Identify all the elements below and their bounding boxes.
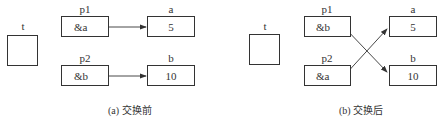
label-p2: p2 (312, 52, 342, 64)
label-a: a (398, 3, 428, 15)
box-b: 10 (389, 65, 437, 86)
label-p2: p2 (70, 52, 100, 64)
caption-after: (b) 交换后 (339, 102, 383, 117)
label-t: t (8, 20, 38, 32)
label-a: a (156, 3, 186, 15)
box-t (249, 34, 280, 65)
box-a: 5 (147, 16, 195, 37)
box-b: 10 (147, 65, 195, 86)
label-t: t (250, 20, 280, 32)
label-b: b (156, 52, 186, 64)
box-p1: &b (304, 16, 351, 37)
box-p1: &a (61, 16, 109, 37)
box-p2: &b (61, 65, 109, 86)
box-p2: &a (304, 65, 351, 86)
label-p1: p1 (70, 3, 100, 15)
box-t (7, 35, 38, 66)
box-a: 5 (389, 16, 437, 37)
label-p1: p1 (312, 3, 342, 15)
caption-before: (a) 交换前 (108, 102, 152, 117)
label-b: b (398, 52, 428, 64)
